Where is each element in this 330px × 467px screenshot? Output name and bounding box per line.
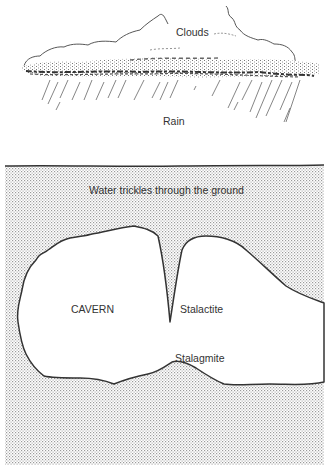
ground-label: Water trickles through the ground [89,185,244,196]
rain-label: Rain [163,116,185,127]
cloud-illustration [22,6,320,78]
stalagmite-label: Stalagmite [175,353,225,364]
cavern-label: CAVERN [71,304,114,315]
diagram-canvas [0,0,330,467]
clouds-label: Clouds [176,27,209,38]
stalactite-label: Stalactite [180,304,223,315]
